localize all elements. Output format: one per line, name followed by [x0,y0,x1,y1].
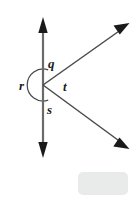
arrowhead-down-icon [38,142,47,158]
reflex-angle-arc [27,69,48,101]
gray-placeholder-box [78,172,128,195]
angle-label-t: t [63,79,67,94]
angle-label-r: r [19,78,25,93]
lower-right-ray-shaft [43,85,122,143]
geometry-figure: q r t s [0,0,138,200]
angle-label-s: s [46,102,52,117]
arrowhead-up-icon [38,17,47,33]
upper-right-ray-shaft [43,29,122,85]
angle-diagram-svg: q r t s [0,0,138,200]
angle-label-q: q [48,56,55,71]
